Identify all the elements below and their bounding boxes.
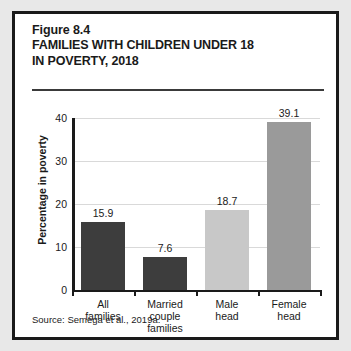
y-axis-tick-label: 10 — [47, 242, 67, 252]
x-axis-tick — [72, 290, 74, 296]
bar-value-label: 7.6 — [135, 243, 195, 254]
x-axis-tick — [196, 290, 198, 296]
x-axis-tick — [258, 290, 260, 296]
y-axis-tick-label: 0 — [47, 285, 67, 295]
y-axis-line — [72, 118, 75, 290]
figure-title-line-1: FAMILIES WITH CHILDREN UNDER 18 — [32, 38, 324, 54]
y-axis-tick-label: 20 — [47, 199, 67, 209]
y-axis-tick-label: 30 — [47, 156, 67, 166]
title-divider — [32, 89, 324, 91]
bar — [267, 122, 311, 290]
y-axis-tick-labels: 010203040 — [45, 118, 67, 290]
figure-frame: Figure 8.4 FAMILIES WITH CHILDREN UNDER … — [12, 11, 339, 340]
x-axis-category-label: Femalehead — [249, 298, 329, 322]
y-axis-tick-label: 40 — [47, 113, 67, 123]
x-axis-tick — [320, 290, 322, 296]
bar-value-label: 18.7 — [197, 196, 257, 207]
source-note: Source: Semega et al., 2019a. — [32, 314, 160, 325]
figure-number: Figure 8.4 — [32, 23, 324, 38]
bar — [205, 210, 249, 290]
figure-title-line-2: IN POVERTY, 2018 — [32, 54, 324, 70]
bar — [143, 257, 187, 290]
bar-value-label: 15.9 — [73, 208, 133, 219]
x-axis-tick — [134, 290, 136, 296]
bar-value-label: 39.1 — [259, 108, 319, 119]
plot-area — [72, 118, 320, 290]
title-block: Figure 8.4 FAMILIES WITH CHILDREN UNDER … — [32, 23, 324, 69]
figure-inner: Figure 8.4 FAMILIES WITH CHILDREN UNDER … — [15, 14, 336, 337]
bar — [81, 222, 125, 290]
bar-chart: Percentage in poverty 010203040 15.9Allf… — [15, 102, 336, 312]
